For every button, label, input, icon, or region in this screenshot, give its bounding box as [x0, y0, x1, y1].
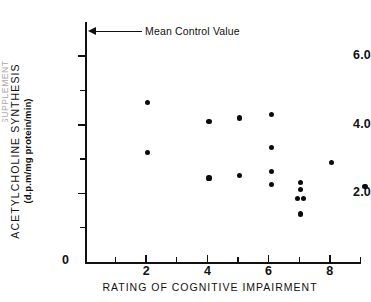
x-tick-label: 6 — [256, 264, 282, 278]
data-point — [206, 119, 211, 124]
data-point — [269, 169, 274, 174]
mean-control-value-annotation: Mean Control Value — [88, 24, 240, 38]
y-tick-label: 4.0 — [299, 117, 371, 131]
data-point — [269, 182, 274, 187]
x-tick-minor — [237, 257, 238, 263]
data-point — [329, 160, 334, 165]
y-tick-major — [78, 55, 86, 57]
x-tick-label: 4 — [194, 264, 220, 278]
cropped-edge-text-label: SUPPLEMENT — [0, 2, 10, 122]
y-tick-major — [78, 124, 86, 126]
x-tick-major — [207, 255, 209, 263]
data-point — [298, 211, 303, 216]
data-point — [237, 115, 242, 120]
x-tick-label: 2 — [133, 264, 159, 278]
data-point — [269, 112, 274, 117]
data-point — [295, 196, 300, 201]
y-tick-major — [78, 193, 86, 195]
data-point — [301, 196, 306, 201]
data-point — [145, 100, 150, 105]
scatter-plot-figure: SUPPLEMENT ACETYLCHOLINE SYNTHESIS (d.p.… — [0, 0, 371, 302]
y-tick-minor — [80, 90, 86, 91]
data-point — [269, 145, 274, 150]
y-tick-minor — [80, 158, 86, 159]
data-point — [298, 180, 303, 185]
y-tick-label: 6.0 — [299, 48, 371, 62]
data-point — [362, 184, 367, 189]
x-tick-major — [268, 255, 270, 263]
data-point — [206, 175, 211, 180]
origin-tick-label: 0 — [62, 253, 69, 267]
data-point — [237, 173, 242, 178]
x-tick-minor — [115, 257, 116, 263]
data-point — [145, 150, 150, 155]
x-tick-major — [145, 255, 147, 263]
x-tick-minor — [360, 257, 361, 263]
x-tick-label: 8 — [317, 264, 343, 278]
y-axis-title-units: (d.p.m/mg protein/min) — [22, 98, 33, 203]
x-tick-minor — [176, 257, 177, 263]
left-arrow-icon — [88, 26, 142, 36]
cropped-edge-text: SUPPLEMENT — [0, 2, 12, 122]
x-axis-title: RATING OF COGNITIVE IMPAIRMENT — [60, 281, 360, 293]
y-tick-label: 2.0 — [299, 185, 371, 199]
mean-control-value-label: Mean Control Value — [142, 25, 240, 37]
y-tick-minor — [80, 227, 86, 228]
x-tick-minor — [299, 257, 300, 263]
x-tick-major — [329, 255, 331, 263]
